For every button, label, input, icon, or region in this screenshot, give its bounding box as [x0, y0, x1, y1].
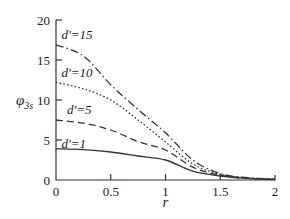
x-tick-label: 2 — [272, 184, 279, 199]
curve-annotation: d'=15 — [61, 27, 93, 42]
y-tick-label: 15 — [37, 53, 50, 68]
axis-frame — [56, 20, 275, 180]
y-axis-label: φ3s — [16, 92, 33, 111]
line-chart: 0510152000.511.52 rφ3sd'=15d'=10d'=5d'=1 — [0, 0, 290, 219]
curve-annotation: d'=1 — [61, 136, 86, 151]
x-tick-label: 1.5 — [212, 184, 228, 199]
curve-d10 — [56, 82, 275, 179]
x-tick-label: 0.5 — [103, 184, 119, 199]
curve-annotation: d'=5 — [67, 102, 92, 117]
y-tick-label: 0 — [44, 173, 51, 188]
y-tick-label: 20 — [37, 13, 50, 28]
x-tick-label: 0 — [53, 184, 60, 199]
y-tick-label: 5 — [44, 133, 51, 148]
curve-annotation: d'=10 — [61, 65, 93, 80]
x-axis-label: r — [163, 194, 169, 210]
y-tick-label: 10 — [37, 93, 50, 108]
